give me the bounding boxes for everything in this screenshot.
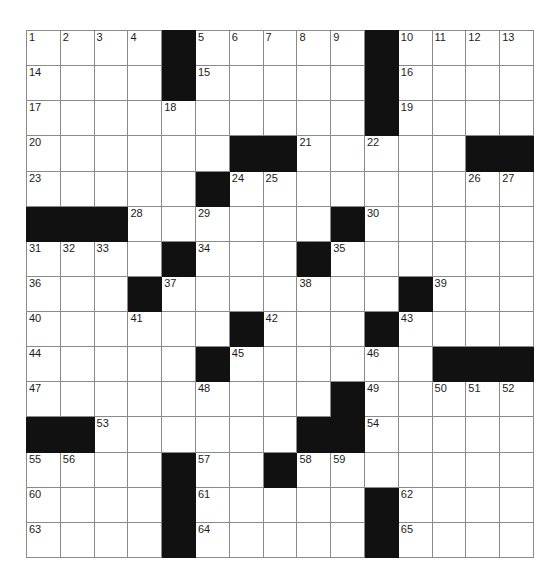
crossword-cell-61[interactable]: 61 bbox=[195, 487, 229, 522]
crossword-cell[interactable] bbox=[162, 417, 196, 452]
crossword-cell[interactable] bbox=[195, 417, 229, 452]
crossword-cell[interactable] bbox=[128, 522, 162, 557]
crossword-cell[interactable] bbox=[432, 171, 466, 206]
crossword-cell[interactable] bbox=[128, 136, 162, 171]
crossword-cell-43[interactable]: 43 bbox=[398, 312, 432, 347]
crossword-cell-14[interactable]: 14 bbox=[27, 66, 61, 101]
crossword-cell-29[interactable]: 29 bbox=[195, 206, 229, 241]
crossword-cell[interactable] bbox=[263, 417, 297, 452]
crossword-cell-12[interactable]: 12 bbox=[466, 31, 500, 66]
crossword-cell[interactable] bbox=[162, 312, 196, 347]
crossword-cell-41[interactable]: 41 bbox=[128, 312, 162, 347]
crossword-cell[interactable] bbox=[297, 312, 331, 347]
crossword-cell[interactable] bbox=[297, 522, 331, 557]
crossword-cell-3[interactable]: 3 bbox=[94, 31, 128, 66]
crossword-cell[interactable] bbox=[128, 101, 162, 136]
crossword-cell-58[interactable]: 58 bbox=[297, 452, 331, 487]
crossword-cell[interactable] bbox=[432, 241, 466, 276]
crossword-cell[interactable] bbox=[500, 206, 534, 241]
crossword-cell[interactable] bbox=[398, 452, 432, 487]
crossword-cell-39[interactable]: 39 bbox=[432, 276, 466, 311]
crossword-cell-30[interactable]: 30 bbox=[364, 206, 398, 241]
crossword-cell[interactable] bbox=[229, 276, 263, 311]
crossword-cell[interactable] bbox=[331, 522, 365, 557]
crossword-cell-49[interactable]: 49 bbox=[364, 382, 398, 417]
crossword-cell[interactable] bbox=[128, 347, 162, 382]
crossword-cell[interactable] bbox=[229, 66, 263, 101]
crossword-cell-22[interactable]: 22 bbox=[364, 136, 398, 171]
crossword-cell[interactable] bbox=[331, 487, 365, 522]
crossword-cell[interactable] bbox=[297, 487, 331, 522]
crossword-cell[interactable] bbox=[60, 276, 94, 311]
crossword-cell-13[interactable]: 13 bbox=[500, 31, 534, 66]
crossword-cell[interactable] bbox=[60, 347, 94, 382]
crossword-cell[interactable] bbox=[432, 522, 466, 557]
crossword-cell[interactable] bbox=[500, 66, 534, 101]
crossword-cell-47[interactable]: 47 bbox=[27, 382, 61, 417]
crossword-cell-57[interactable]: 57 bbox=[195, 452, 229, 487]
crossword-cell[interactable] bbox=[94, 276, 128, 311]
crossword-cell[interactable] bbox=[60, 487, 94, 522]
crossword-cell[interactable] bbox=[500, 452, 534, 487]
crossword-cell[interactable] bbox=[500, 417, 534, 452]
crossword-cell-11[interactable]: 11 bbox=[432, 31, 466, 66]
crossword-cell[interactable] bbox=[297, 206, 331, 241]
crossword-cell[interactable] bbox=[162, 206, 196, 241]
crossword-cell[interactable] bbox=[60, 171, 94, 206]
crossword-cell[interactable] bbox=[162, 347, 196, 382]
crossword-cell[interactable] bbox=[162, 382, 196, 417]
crossword-cell[interactable] bbox=[500, 101, 534, 136]
crossword-cell-60[interactable]: 60 bbox=[27, 487, 61, 522]
crossword-cell-2[interactable]: 2 bbox=[60, 31, 94, 66]
crossword-cell[interactable] bbox=[94, 66, 128, 101]
crossword-cell[interactable] bbox=[466, 417, 500, 452]
crossword-cell[interactable] bbox=[94, 312, 128, 347]
crossword-cell[interactable] bbox=[500, 312, 534, 347]
crossword-cell[interactable] bbox=[128, 66, 162, 101]
crossword-cell[interactable] bbox=[364, 276, 398, 311]
crossword-cell[interactable] bbox=[500, 276, 534, 311]
crossword-cell[interactable] bbox=[432, 312, 466, 347]
crossword-cell[interactable] bbox=[263, 206, 297, 241]
crossword-cell[interactable] bbox=[128, 417, 162, 452]
crossword-cell[interactable] bbox=[432, 206, 466, 241]
crossword-cell-7[interactable]: 7 bbox=[263, 31, 297, 66]
crossword-cell[interactable] bbox=[398, 347, 432, 382]
crossword-cell[interactable] bbox=[466, 101, 500, 136]
crossword-cell[interactable] bbox=[60, 382, 94, 417]
crossword-cell[interactable] bbox=[229, 522, 263, 557]
crossword-cell[interactable] bbox=[229, 382, 263, 417]
crossword-cell[interactable] bbox=[432, 487, 466, 522]
crossword-cell[interactable] bbox=[60, 136, 94, 171]
crossword-cell[interactable] bbox=[229, 487, 263, 522]
crossword-cell[interactable] bbox=[128, 171, 162, 206]
crossword-cell-37[interactable]: 37 bbox=[162, 276, 196, 311]
crossword-cell[interactable] bbox=[331, 136, 365, 171]
crossword-cell-5[interactable]: 5 bbox=[195, 31, 229, 66]
crossword-cell[interactable] bbox=[466, 276, 500, 311]
crossword-cell[interactable] bbox=[297, 347, 331, 382]
crossword-cell[interactable] bbox=[364, 241, 398, 276]
crossword-cell-32[interactable]: 32 bbox=[60, 241, 94, 276]
crossword-cell-28[interactable]: 28 bbox=[128, 206, 162, 241]
crossword-cell-23[interactable]: 23 bbox=[27, 171, 61, 206]
crossword-cell-4[interactable]: 4 bbox=[128, 31, 162, 66]
crossword-cell-55[interactable]: 55 bbox=[27, 452, 61, 487]
crossword-cell-63[interactable]: 63 bbox=[27, 522, 61, 557]
crossword-cell[interactable] bbox=[94, 347, 128, 382]
crossword-cell[interactable] bbox=[466, 522, 500, 557]
crossword-cell[interactable] bbox=[94, 101, 128, 136]
crossword-cell[interactable] bbox=[128, 487, 162, 522]
crossword-cell[interactable] bbox=[195, 312, 229, 347]
crossword-cell[interactable] bbox=[94, 136, 128, 171]
crossword-cell-31[interactable]: 31 bbox=[27, 241, 61, 276]
crossword-cell[interactable] bbox=[398, 241, 432, 276]
crossword-cell[interactable] bbox=[195, 101, 229, 136]
crossword-cell-52[interactable]: 52 bbox=[500, 382, 534, 417]
crossword-cell[interactable] bbox=[466, 452, 500, 487]
crossword-cell[interactable] bbox=[263, 347, 297, 382]
crossword-cell-34[interactable]: 34 bbox=[195, 241, 229, 276]
crossword-cell-40[interactable]: 40 bbox=[27, 312, 61, 347]
crossword-cell[interactable] bbox=[263, 241, 297, 276]
crossword-cell[interactable] bbox=[466, 487, 500, 522]
